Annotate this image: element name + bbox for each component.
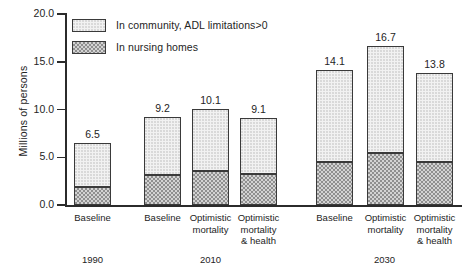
bar-value-label: 6.5 [85, 128, 100, 140]
bar-segment-nursing [367, 153, 404, 205]
legend-label-community: In community, ADL limitations>0 [116, 19, 268, 31]
legend-label-nursing: In nursing homes [116, 41, 198, 53]
bar-segment-community [74, 143, 111, 187]
bar: 9.1 [240, 118, 277, 205]
y-axis-tick-label: 10.0 [14, 103, 54, 115]
y-axis-tick-label: 0.0 [14, 198, 54, 210]
bar-segment-nursing [316, 162, 353, 205]
bar-segment-community [192, 109, 229, 171]
legend-swatch-nursing-icon [72, 41, 106, 54]
y-axis-tick-label: 5.0 [14, 150, 54, 162]
bar: 16.7 [367, 46, 404, 205]
bar-segment-community [240, 118, 277, 174]
x-axis-category-label: Optimistic mortality & health [398, 212, 466, 247]
bar-segment-nursing [416, 162, 453, 205]
y-axis-tick [57, 157, 66, 159]
bar-segment-nursing [144, 175, 181, 205]
bar-segment-community [367, 46, 404, 154]
bar-value-label: 13.8 [424, 58, 444, 70]
legend-item-community: In community, ADL limitations>0 [72, 17, 268, 33]
bar: 10.1 [192, 109, 229, 205]
bar-value-label: 10.1 [200, 94, 220, 106]
bar: 14.1 [316, 70, 353, 205]
y-axis-tick [57, 109, 66, 111]
bar-segment-community [144, 117, 181, 175]
x-axis-category-label: Optimistic mortality & health [222, 212, 295, 247]
stacked-bar-chart: Millions of persons 0.05.010.015.020.0 6… [0, 0, 466, 276]
y-axis-tick-label: 20.0 [14, 7, 54, 19]
x-axis-group-label: 2030 [355, 254, 415, 265]
bar: 9.2 [144, 117, 181, 205]
legend-swatch-community-icon [72, 19, 106, 32]
x-axis-group-label: 2010 [181, 254, 241, 265]
bar-segment-nursing [192, 171, 229, 205]
legend: In community, ADL limitations>0 In nursi… [72, 17, 268, 61]
bar-value-label: 16.7 [375, 31, 395, 43]
bar: 13.8 [416, 73, 453, 205]
x-axis-line [65, 205, 462, 207]
bar-segment-community [316, 70, 353, 162]
bar-segment-nursing [240, 174, 277, 205]
bar-value-label: 9.1 [251, 103, 266, 115]
x-axis-group-label: 1990 [63, 254, 123, 265]
y-axis-tick [57, 13, 66, 15]
bar: 6.5 [74, 143, 111, 205]
y-axis-tick [57, 204, 66, 206]
legend-item-nursing: In nursing homes [72, 39, 268, 55]
y-axis-tick-label: 15.0 [14, 55, 54, 67]
bar-segment-community [416, 73, 453, 162]
bar-segment-nursing [74, 187, 111, 205]
bar-value-label: 14.1 [324, 55, 344, 67]
x-axis-category-label: Baseline [56, 212, 129, 224]
bar-value-label: 9.2 [155, 102, 170, 114]
y-axis-tick [57, 61, 66, 63]
